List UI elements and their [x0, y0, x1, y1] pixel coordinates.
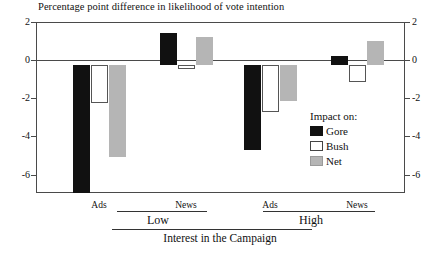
legend-label-net: Net: [326, 155, 342, 167]
bar-bush-3: [349, 65, 366, 82]
bar-bush-0: [91, 65, 108, 103]
bar-gore-0: [73, 65, 90, 193]
y-tick-label-left-1: 0: [8, 55, 30, 65]
x-tick-label-low-ads: Ads: [79, 200, 119, 210]
legend: Impact on: Gore Bush Net: [310, 110, 357, 170]
y-tick-label-left-0: 2: [8, 17, 30, 27]
bar-gore-2: [244, 65, 261, 151]
y-tick-mark-right--6: [405, 175, 410, 176]
bar-bush-2: [262, 65, 279, 112]
y-tick-mark-right-2: [405, 22, 410, 23]
y-tick-mark-right-0: [405, 60, 410, 61]
y-tick-label-left-3: -4: [8, 131, 30, 141]
y-tick-label-left-4: -6: [8, 170, 30, 180]
x-tick-label-high-news: News: [337, 200, 377, 210]
legend-swatch-gore-icon: [310, 126, 323, 136]
y-tick-label-left-2: -2: [8, 93, 30, 103]
y-tick-label-right-4: -6: [412, 170, 434, 180]
chart-container: Percentage point difference in likelihoo…: [0, 0, 440, 256]
legend-label-bush: Bush: [326, 140, 349, 152]
y-tick-mark-right--4: [405, 136, 410, 137]
legend-label-gore: Gore: [326, 125, 348, 137]
y-tick-label-right-3: -4: [412, 131, 434, 141]
y-tick-mark-right--2: [405, 98, 410, 99]
bar-gore-3: [331, 56, 348, 65]
x-axis-title: Interest in the Campaign: [0, 232, 440, 244]
bar-gore-1: [160, 33, 177, 65]
y-tick-label-right-1: 0: [412, 55, 434, 65]
x-tick-label-low-news: News: [166, 200, 206, 210]
legend-item-net[interactable]: Net: [310, 155, 357, 167]
bar-net-3: [367, 41, 384, 65]
bar-net-0: [109, 65, 126, 157]
x-tick-label-high-ads: Ads: [250, 200, 290, 210]
bar-net-2: [280, 65, 297, 101]
legend-title: Impact on:: [310, 110, 357, 122]
bar-net-1: [196, 37, 213, 65]
legend-swatch-bush-icon: [310, 141, 323, 151]
bar-bush-1: [178, 65, 195, 69]
legend-item-bush[interactable]: Bush: [310, 140, 357, 152]
group-rule-high: [263, 211, 375, 212]
axis-title-rule: [112, 229, 312, 230]
y-tick-label-right-2: -2: [412, 93, 434, 103]
group-label-high: High: [281, 213, 341, 228]
group-label-low: Low: [128, 213, 188, 228]
y-tick-label-right-0: 2: [412, 17, 434, 27]
legend-item-gore[interactable]: Gore: [310, 125, 357, 137]
group-rule-low: [117, 211, 207, 212]
chart-title: Percentage point difference in likelihoo…: [38, 1, 284, 12]
legend-swatch-net-icon: [310, 156, 323, 166]
